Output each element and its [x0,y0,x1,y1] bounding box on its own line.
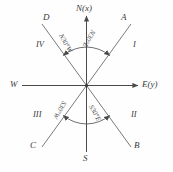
origin-point [85,84,88,87]
axis-label-west: W [10,80,18,89]
angle-arc-n30e [87,47,110,56]
bearing-diagram: N(x) E(y) W S A B C D I II III IV N30°W … [0,0,173,172]
ray-label-b: B [134,141,140,150]
ray-label-d: D [43,13,50,22]
axis-label-south: S [83,154,88,163]
ray-label-a: A [121,13,127,22]
quadrant-label-iv: IV [36,40,44,49]
angle-arc-s30w [63,116,86,125]
quadrant-label-iii: III [33,110,42,119]
axis-label-north: N(x) [76,4,92,13]
axis-label-east: E(y) [142,80,158,89]
quadrant-label-ii: II [131,110,137,119]
quadrant-label-i: I [133,40,136,49]
ray-label-c: C [30,141,36,150]
